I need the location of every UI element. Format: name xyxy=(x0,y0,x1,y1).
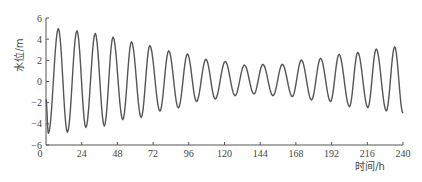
x-axis-title: 时间/h xyxy=(355,160,385,172)
y-tick-label: −2 xyxy=(31,97,42,108)
x-tick-label: 48 xyxy=(112,148,122,159)
x-tick-label: 0 xyxy=(38,148,43,159)
y-tick-label: 2 xyxy=(37,55,42,66)
water-level-chart: −6−4−20246 024487296120144168192216240 水… xyxy=(0,0,422,182)
x-tick-label: 192 xyxy=(324,148,339,159)
x-tick-label: 24 xyxy=(77,148,87,159)
x-tick-label: 240 xyxy=(396,148,411,159)
y-tick-label: 6 xyxy=(37,13,42,24)
x-tick-label: 96 xyxy=(184,148,194,159)
x-tick-label: 144 xyxy=(253,148,268,159)
y-tick-label: −4 xyxy=(31,118,42,129)
x-tick-label: 216 xyxy=(360,148,375,159)
y-tick-label: 0 xyxy=(37,76,42,87)
x-tick-label: 72 xyxy=(148,148,158,159)
water-level-line xyxy=(46,29,403,134)
y-tick-label: 4 xyxy=(37,34,42,45)
x-tick-label: 120 xyxy=(217,148,232,159)
x-tick-label: 168 xyxy=(288,148,303,159)
y-axis-title: 水位/m xyxy=(13,38,25,71)
